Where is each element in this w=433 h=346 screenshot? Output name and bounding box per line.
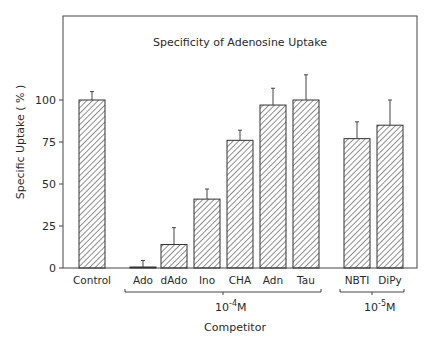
x-tick-label: Tau (296, 274, 315, 286)
chart-title: Specificity of Adenosine Uptake (153, 36, 327, 49)
group-brace: 10-5M (340, 289, 404, 314)
bar-control (79, 92, 105, 268)
x-tick-label: Ino (199, 274, 215, 286)
group-concentration-label: 10-5M (364, 299, 395, 314)
y-tick-label: 25 (42, 220, 56, 233)
x-tick-label: Ado (133, 274, 153, 286)
bar-cha (227, 130, 253, 268)
x-tick-label: DiPy (378, 274, 402, 286)
concentration-groups: 10-4M10-5M (125, 289, 404, 314)
y-tick-label: 0 (49, 262, 56, 275)
bar-nbti (344, 122, 370, 268)
bar-dado (161, 228, 187, 268)
y-tick-label: 75 (42, 136, 56, 149)
x-tick-label: NBTI (345, 274, 370, 286)
y-axis-label: Specific Uptake ( % ) (14, 85, 27, 200)
bar-tau (293, 75, 319, 268)
x-axis-label: Competitor (204, 321, 266, 334)
bars (79, 75, 403, 268)
bar-ado (130, 260, 156, 268)
y-axis-ticks: 0255075100 (35, 94, 63, 275)
x-axis-tick-labels: ControlAdodAdoInoCHAAdnTauNBTIDiPy (73, 274, 402, 286)
group-brace: 10-4M (125, 289, 321, 314)
y-tick-label: 100 (35, 94, 56, 107)
y-tick-label: 50 (42, 178, 56, 191)
x-tick-label: dAdo (161, 274, 188, 286)
bar-ino (194, 189, 220, 268)
group-concentration-label: 10-4M (215, 299, 246, 314)
bar-adn (260, 88, 286, 268)
x-tick-label: Adn (263, 274, 283, 286)
x-tick-label: Control (73, 274, 111, 286)
bar-dipy (377, 100, 403, 268)
x-tick-label: CHA (229, 274, 252, 286)
bar-chart: Specificity of Adenosine Uptake Specific… (0, 0, 433, 346)
